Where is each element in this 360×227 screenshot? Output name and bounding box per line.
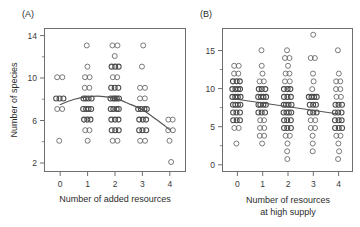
panel-b-ytick-10: 10 bbox=[206, 84, 216, 94]
panel-b-label: (B) bbox=[200, 9, 212, 19]
panel-a-xtick-3: 3 bbox=[140, 179, 145, 189]
panel-b-ytick-15: 15 bbox=[206, 46, 216, 56]
panel-b-x-axis-title-line1: Number of resources bbox=[246, 195, 331, 205]
data-point bbox=[139, 64, 144, 69]
data-point bbox=[288, 94, 293, 99]
data-point bbox=[263, 87, 268, 92]
data-point bbox=[285, 141, 290, 146]
panel-b-trend-line bbox=[237, 99, 339, 114]
data-point bbox=[60, 75, 65, 80]
data-point bbox=[57, 138, 62, 143]
data-point bbox=[84, 43, 89, 48]
data-point bbox=[237, 79, 242, 84]
data-point bbox=[138, 96, 143, 101]
panel-a-ytick-10: 10 bbox=[28, 73, 38, 83]
data-point bbox=[285, 149, 290, 154]
panel-a-data-points bbox=[54, 43, 176, 165]
data-point bbox=[138, 85, 143, 90]
data-point bbox=[115, 43, 120, 48]
panel-a-x-axis: 0 1 2 3 4 bbox=[58, 172, 173, 190]
data-point bbox=[110, 138, 115, 143]
panel-a-xtick-1: 1 bbox=[85, 179, 90, 189]
panel-a-label: (A) bbox=[22, 9, 34, 19]
data-point bbox=[336, 141, 341, 146]
data-point bbox=[288, 118, 293, 123]
panel-b-xtick-2: 2 bbox=[286, 179, 291, 189]
panel-b-ytick-5: 5 bbox=[210, 122, 215, 132]
data-point bbox=[259, 63, 264, 68]
data-point bbox=[282, 79, 287, 84]
data-point bbox=[138, 138, 143, 143]
data-point bbox=[335, 48, 340, 53]
data-point bbox=[287, 79, 292, 84]
panel-a-xtick-2: 2 bbox=[113, 179, 118, 189]
panel-b: (B) 15 10 5 0 bbox=[200, 9, 353, 217]
panel-a-y-axis: 14 10 6 2 bbox=[28, 31, 45, 168]
data-point bbox=[60, 107, 65, 112]
data-point bbox=[263, 110, 268, 115]
data-point bbox=[169, 159, 174, 164]
panel-b-xtick-1: 1 bbox=[260, 179, 265, 189]
data-point bbox=[116, 64, 121, 69]
data-point bbox=[285, 48, 290, 53]
data-point bbox=[115, 138, 120, 143]
panel-b-ytick-0: 0 bbox=[210, 160, 215, 170]
panel-b-data-points bbox=[230, 32, 345, 161]
data-point bbox=[116, 128, 121, 133]
data-point bbox=[260, 71, 265, 76]
data-point bbox=[55, 75, 60, 80]
panel-b-x-axis-title-line2: at high supply bbox=[260, 207, 316, 217]
data-point bbox=[260, 141, 265, 146]
data-point bbox=[311, 71, 316, 76]
data-point bbox=[310, 141, 315, 146]
panel-b-x-axis: 0 1 2 3 4 bbox=[235, 172, 341, 190]
data-point bbox=[286, 63, 291, 68]
data-point bbox=[144, 117, 149, 122]
data-point bbox=[339, 102, 344, 107]
data-point bbox=[116, 117, 121, 122]
panel-a: (A) 14 10 6 2 bbox=[9, 9, 186, 204]
data-point bbox=[112, 54, 117, 59]
panel-b-xtick-4: 4 bbox=[336, 179, 341, 189]
data-point bbox=[142, 85, 147, 90]
data-point bbox=[116, 85, 121, 90]
panel-a-y-axis-title: Number of species bbox=[9, 62, 19, 138]
data-point bbox=[337, 149, 342, 154]
data-point bbox=[259, 48, 264, 53]
data-point bbox=[55, 107, 60, 112]
data-point bbox=[88, 117, 93, 122]
data-point bbox=[85, 64, 90, 69]
panel-a-xtick-4: 4 bbox=[167, 179, 172, 189]
data-point bbox=[85, 138, 90, 143]
data-point bbox=[310, 133, 315, 138]
data-point bbox=[310, 87, 315, 92]
data-point bbox=[167, 138, 172, 143]
panel-b-xtick-3: 3 bbox=[311, 179, 316, 189]
data-point bbox=[336, 157, 341, 162]
panel-a-ytick-2: 2 bbox=[32, 158, 37, 168]
data-point bbox=[311, 79, 316, 84]
data-point bbox=[141, 43, 146, 48]
data-point bbox=[336, 71, 341, 76]
data-point bbox=[288, 125, 293, 130]
figure-container: (A) 14 10 6 2 bbox=[0, 0, 360, 227]
data-point bbox=[237, 110, 242, 115]
panel-b-y-axis: 15 10 5 0 bbox=[206, 46, 223, 170]
data-point bbox=[285, 157, 290, 162]
panel-a-xtick-0: 0 bbox=[58, 179, 63, 189]
panel-b-xtick-0: 0 bbox=[235, 179, 240, 189]
data-point bbox=[237, 118, 242, 123]
panel-a-x-axis-title: Number of added resources bbox=[59, 194, 171, 204]
data-point bbox=[340, 125, 345, 130]
panel-a-ytick-14: 14 bbox=[28, 31, 38, 41]
two-panel-scatter-figure: (A) 14 10 6 2 bbox=[0, 0, 360, 227]
data-point bbox=[142, 96, 147, 101]
data-point bbox=[339, 110, 344, 115]
panel-a-ytick-6: 6 bbox=[32, 116, 37, 126]
data-point bbox=[110, 43, 115, 48]
data-point bbox=[311, 32, 316, 37]
data-point bbox=[143, 138, 148, 143]
data-point bbox=[310, 149, 315, 154]
data-point bbox=[234, 141, 239, 146]
